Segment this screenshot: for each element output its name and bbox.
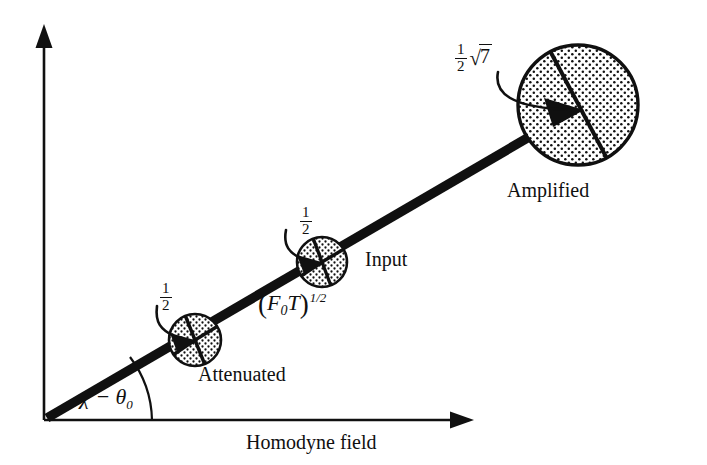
attenuated-uncertainty-label: 1 2 bbox=[160, 281, 172, 313]
state-input bbox=[297, 237, 347, 287]
amplified-radicand: 7 bbox=[479, 44, 492, 66]
amplified-caption: Amplified bbox=[507, 180, 589, 200]
angle-label-subscript: 0 bbox=[126, 397, 133, 412]
input-uncertainty-label: 1 2 bbox=[300, 205, 312, 237]
attenuated-half-fraction: 1 2 bbox=[160, 281, 172, 313]
amplified-fraction-denominator: 2 bbox=[455, 59, 467, 75]
amplitude-exponent: 1/2 bbox=[310, 290, 327, 305]
amplitude-open-paren: ( bbox=[258, 289, 267, 319]
input-caption: Input bbox=[365, 249, 407, 269]
amplitude-label: (F0T)1/2 bbox=[258, 291, 326, 318]
attenuated-caption: Attenuated bbox=[198, 364, 286, 384]
state-attenuated bbox=[169, 314, 221, 366]
input-fraction-numerator: 1 bbox=[300, 205, 312, 222]
amplitude-close-paren: ) bbox=[300, 289, 309, 319]
input-fraction-denominator: 2 bbox=[300, 222, 312, 238]
angle-label: χ − θ0 bbox=[80, 386, 133, 411]
x-axis-arrowhead bbox=[450, 412, 474, 429]
amplified-uncertainty-label: 1 2 √7 bbox=[455, 42, 492, 74]
input-half-fraction: 1 2 bbox=[300, 205, 312, 237]
amplified-fraction-numerator: 1 bbox=[455, 42, 467, 59]
figure-root: Homodyne field Amplified Input Attenuate… bbox=[0, 0, 707, 465]
angle-label-text: χ − θ bbox=[80, 384, 126, 409]
attenuated-fraction-denominator: 2 bbox=[160, 298, 172, 314]
x-axis-label: Homodyne field bbox=[246, 432, 377, 452]
amplitude-symbol-f: F bbox=[267, 290, 280, 315]
amplitude-symbol-t: T bbox=[287, 290, 299, 315]
attenuated-fraction-numerator: 1 bbox=[160, 281, 172, 298]
amplified-half-fraction: 1 2 bbox=[455, 42, 467, 74]
y-axis-arrowhead bbox=[36, 24, 53, 48]
